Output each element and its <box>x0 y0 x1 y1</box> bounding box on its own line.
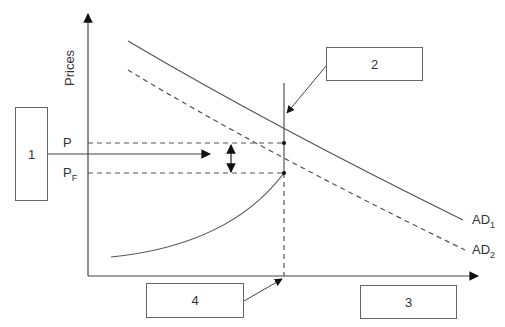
box-3: 3 <box>360 285 457 319</box>
price-label-pf: PF <box>63 166 77 183</box>
price-label-p-text: P <box>63 135 72 150</box>
box-2-label: 2 <box>371 57 378 72</box>
price-label-p: P <box>63 136 72 149</box>
ad2-label-sub: 2 <box>490 250 495 260</box>
ad2-label: AD2 <box>472 243 495 260</box>
box-3-label: 3 <box>405 295 412 310</box>
box-4-label: 4 <box>191 293 198 308</box>
ad1-label-text: AD <box>472 212 490 227</box>
y-axis-title: Prices <box>62 50 77 86</box>
arrow-from-box-2 <box>287 66 326 113</box>
ad1-label: AD1 <box>472 213 495 230</box>
box-1: 1 <box>15 107 48 201</box>
point-pf <box>282 171 286 175</box>
ad2-label-text: AD <box>472 242 490 257</box>
box-2: 2 <box>326 47 423 81</box>
point-p <box>282 141 286 145</box>
box-4: 4 <box>146 283 244 318</box>
arrow-from-box-4 <box>244 279 282 301</box>
ad2-curve <box>128 70 465 250</box>
ad1-label-sub: 1 <box>490 220 495 230</box>
rising-curve <box>111 173 284 257</box>
price-label-pf-sub: F <box>72 173 78 183</box>
box-1-label: 1 <box>28 147 35 162</box>
price-label-pf-text: P <box>63 165 72 180</box>
